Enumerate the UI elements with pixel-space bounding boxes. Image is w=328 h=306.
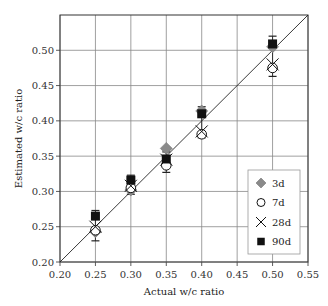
square-marker	[162, 154, 171, 163]
legend-label: 28d	[272, 217, 292, 228]
square-marker	[91, 212, 100, 221]
x-tick-label: 0.50	[261, 269, 283, 280]
scatter-chart: 0.200.250.300.350.400.450.500.550.200.25…	[0, 0, 328, 306]
y-tick-label: 0.40	[32, 115, 54, 126]
square-marker	[126, 176, 135, 185]
x-tick-label: 0.25	[84, 269, 106, 280]
x-tick-label: 0.40	[191, 269, 213, 280]
y-tick-label: 0.35	[32, 151, 54, 162]
x-tick-label: 0.30	[120, 269, 142, 280]
y-tick-label: 0.45	[32, 80, 54, 91]
legend: 3d7d28d90d	[248, 170, 300, 254]
x-tick-label: 0.55	[297, 269, 319, 280]
square-marker	[268, 39, 277, 48]
y-tick-label: 0.50	[32, 45, 54, 56]
y-axis-label: Estimated w/c ratio	[13, 89, 24, 188]
legend-circle-icon	[257, 199, 265, 207]
square-marker	[197, 109, 206, 118]
y-tick-label: 0.20	[32, 257, 54, 268]
legend-label: 7d	[272, 197, 285, 208]
x-tick-label: 0.35	[155, 269, 177, 280]
legend-square-icon	[257, 238, 265, 246]
y-tick-label: 0.25	[32, 221, 54, 232]
x-axis-label: Actual w/c ratio	[143, 286, 224, 297]
x-tick-label: 0.45	[226, 269, 248, 280]
legend-label: 3d	[272, 178, 285, 189]
y-tick-label: 0.30	[32, 186, 54, 197]
x-tick-label: 0.20	[49, 269, 71, 280]
legend-label: 90d	[272, 236, 292, 247]
